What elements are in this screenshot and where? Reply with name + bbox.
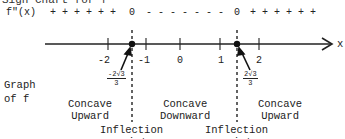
tick-label-1: 1 (218, 55, 224, 66)
axis-variable-label: x (337, 38, 343, 50)
fraction-denominator: 3 (243, 79, 258, 87)
tick-label-neg2: -2 (98, 55, 110, 66)
tick-label-2: 2 (256, 55, 262, 66)
arrow-head-icon (238, 48, 244, 55)
inflection-point-label-left: Inflection point (100, 124, 163, 139)
critical-point-left (129, 41, 135, 47)
critical-point-right (234, 41, 240, 47)
interval-concave-upward-right: Concave Upward (258, 98, 302, 122)
arrow-head-icon (125, 48, 131, 55)
fraction-numerator: 2√3 (243, 70, 258, 79)
inflection-point-label-right: Inflection point (205, 124, 268, 139)
tick-label-neg1: -1 (138, 55, 150, 66)
critical-value-left: -2√3 3 (107, 70, 126, 87)
fraction-numerator: -2√3 (107, 70, 126, 79)
fraction-denominator: 3 (107, 79, 126, 87)
interval-concave-downward: Concave Downward (160, 98, 210, 122)
tick-label-0: 0 (177, 55, 183, 66)
interval-concave-upward-left: Concave Upward (68, 98, 112, 122)
critical-value-right: 2√3 3 (243, 70, 258, 87)
graph-of-f-label: Graph of f (4, 78, 36, 106)
